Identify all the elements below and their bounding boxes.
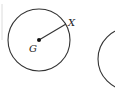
point-label-x: X bbox=[67, 17, 76, 28]
center-label-g: G bbox=[29, 43, 37, 54]
circle-2-partial bbox=[98, 28, 115, 89]
geometry-diagram: X G bbox=[0, 0, 115, 89]
center-point-g bbox=[37, 38, 41, 42]
radius-gx bbox=[39, 24, 66, 40]
